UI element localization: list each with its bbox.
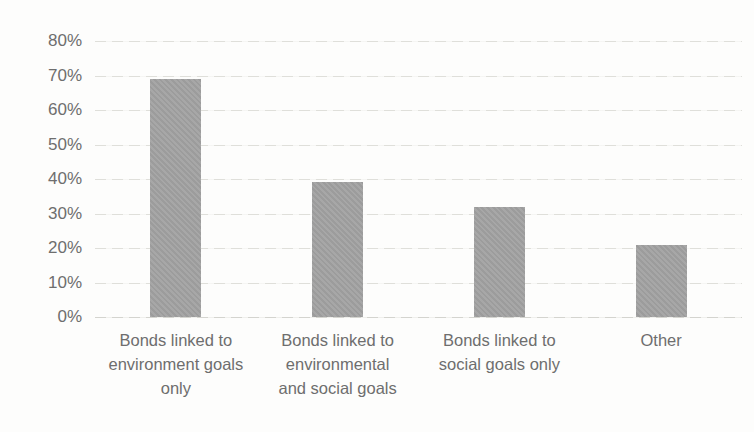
bar-chart: 0%10%20%30%40%50%60%70%80% Bonds linked … — [0, 0, 754, 432]
y-tick-label: 10% — [0, 272, 82, 294]
y-tick-label: 30% — [0, 203, 82, 225]
category-label-2: Bonds linked toenvironmentaland social g… — [248, 328, 428, 400]
bar-4 — [636, 245, 687, 317]
gridline — [95, 317, 742, 318]
category-label-4: Other — [571, 328, 751, 352]
bar-3 — [474, 207, 525, 317]
y-tick-label: 60% — [0, 99, 82, 121]
bar-2 — [312, 182, 363, 317]
category-label-line: environment goals — [86, 352, 266, 376]
y-tick-label: 50% — [0, 134, 82, 156]
category-label-line: and social goals — [248, 376, 428, 400]
x-axis: Bonds linked toenvironment goalsonlyBond… — [95, 328, 742, 418]
category-label-line: Bonds linked to — [86, 328, 266, 352]
category-label-1: Bonds linked toenvironment goalsonly — [86, 328, 266, 400]
y-axis: 0%10%20%30%40%50%60%70%80% — [0, 41, 82, 317]
category-label-line: social goals only — [409, 352, 589, 376]
y-tick-label: 0% — [0, 306, 82, 328]
category-label-line: environmental — [248, 352, 428, 376]
category-label-line: Bonds linked to — [409, 328, 589, 352]
gridline — [95, 41, 742, 42]
gridline — [95, 76, 742, 77]
y-tick-label: 80% — [0, 30, 82, 52]
category-label-line: Other — [571, 328, 751, 352]
y-tick-label: 40% — [0, 168, 82, 190]
category-label-3: Bonds linked tosocial goals only — [409, 328, 589, 376]
category-label-line: Bonds linked to — [248, 328, 428, 352]
bar-1 — [150, 79, 201, 317]
y-tick-label: 20% — [0, 237, 82, 259]
plot-area — [95, 41, 742, 317]
y-tick-label: 70% — [0, 65, 82, 87]
category-label-line: only — [86, 376, 266, 400]
